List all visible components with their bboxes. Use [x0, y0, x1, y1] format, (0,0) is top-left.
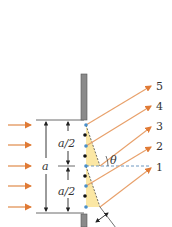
slit-wall-bottom: [81, 214, 87, 227]
incident-arrows: [8, 125, 31, 207]
ray-label-1: 1: [156, 161, 163, 174]
ray-1: [100, 168, 151, 207]
ray-4: [86, 106, 151, 146]
label-slit-width: a: [42, 160, 49, 173]
label-half-top: a/2: [58, 137, 75, 150]
label-half-bottom: a/2: [58, 185, 75, 198]
slit-wall-top: [81, 74, 87, 120]
ray-label-4: 4: [156, 100, 163, 113]
label-theta: θ: [110, 154, 117, 167]
ray-5: [86, 86, 151, 125]
diffracted-rays: [86, 86, 151, 207]
ray-label-5: 5: [156, 80, 163, 93]
ray-label-3: 3: [156, 120, 163, 133]
diffraction-diagram: a a/2 a/2 θ: [0, 0, 172, 227]
path-difference-arrow: [96, 213, 108, 222]
ray-label-2: 2: [156, 140, 163, 153]
